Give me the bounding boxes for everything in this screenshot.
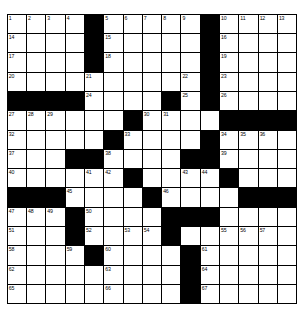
crossword-cell[interactable]: 57 — [259, 227, 278, 246]
crossword-cell[interactable]: 62 — [8, 266, 27, 285]
crossword-cell[interactable] — [27, 227, 46, 246]
crossword-cell[interactable] — [181, 111, 200, 130]
crossword-cell[interactable] — [278, 246, 297, 265]
crossword-cell[interactable]: 65 — [8, 285, 27, 304]
crossword-cell[interactable] — [124, 208, 143, 227]
crossword-cell[interactable] — [143, 169, 162, 188]
crossword-cell[interactable] — [181, 188, 200, 207]
crossword-cell[interactable]: 34 — [220, 131, 239, 150]
crossword-cell[interactable] — [259, 246, 278, 265]
crossword-cell[interactable] — [143, 92, 162, 111]
crossword-cell[interactable] — [201, 227, 220, 246]
crossword-cell[interactable]: 23 — [220, 73, 239, 92]
crossword-cell[interactable] — [278, 266, 297, 285]
crossword-cell[interactable] — [46, 227, 65, 246]
crossword-cell[interactable] — [220, 208, 239, 227]
crossword-cell[interactable] — [278, 150, 297, 169]
crossword-cell[interactable] — [27, 73, 46, 92]
crossword-cell[interactable]: 25 — [181, 92, 200, 111]
crossword-cell[interactable] — [239, 246, 258, 265]
crossword-cell[interactable]: 32 — [8, 131, 27, 150]
crossword-cell[interactable]: 56 — [239, 227, 258, 246]
crossword-cell[interactable] — [220, 246, 239, 265]
crossword-cell[interactable] — [46, 246, 65, 265]
crossword-cell[interactable]: 67 — [201, 285, 220, 304]
crossword-cell[interactable] — [46, 131, 65, 150]
crossword-cell[interactable] — [162, 150, 181, 169]
crossword-cell[interactable]: 39 — [220, 150, 239, 169]
crossword-cell[interactable] — [143, 150, 162, 169]
crossword-cell[interactable] — [259, 285, 278, 304]
crossword-cell[interactable] — [239, 208, 258, 227]
crossword-cell[interactable] — [220, 285, 239, 304]
crossword-cell[interactable]: 9 — [181, 15, 200, 34]
crossword-cell[interactable]: 44 — [201, 169, 220, 188]
crossword-cell[interactable] — [124, 150, 143, 169]
crossword-cell[interactable] — [181, 53, 200, 72]
crossword-cell[interactable] — [46, 53, 65, 72]
crossword-cell[interactable] — [143, 246, 162, 265]
crossword-cell[interactable]: 22 — [181, 73, 200, 92]
crossword-cell[interactable] — [66, 73, 85, 92]
crossword-cell[interactable] — [278, 34, 297, 53]
crossword-cell[interactable]: 16 — [220, 34, 239, 53]
crossword-cell[interactable] — [66, 131, 85, 150]
crossword-cell[interactable] — [278, 92, 297, 111]
crossword-cell[interactable] — [162, 285, 181, 304]
crossword-cell[interactable] — [259, 34, 278, 53]
crossword-cell[interactable] — [162, 34, 181, 53]
crossword-cell[interactable] — [124, 266, 143, 285]
crossword-cell[interactable]: 1 — [8, 15, 27, 34]
crossword-grid[interactable]: 1234567891011121314151617181920212223242… — [7, 14, 297, 304]
crossword-cell[interactable] — [239, 169, 258, 188]
crossword-cell[interactable] — [27, 53, 46, 72]
crossword-cell[interactable] — [124, 92, 143, 111]
crossword-cell[interactable] — [27, 266, 46, 285]
crossword-cell[interactable] — [239, 285, 258, 304]
crossword-cell[interactable] — [143, 34, 162, 53]
crossword-cell[interactable] — [162, 131, 181, 150]
crossword-cell[interactable]: 10 — [220, 15, 239, 34]
crossword-cell[interactable] — [104, 92, 123, 111]
crossword-cell[interactable]: 63 — [104, 266, 123, 285]
crossword-cell[interactable] — [201, 111, 220, 130]
crossword-cell[interactable]: 3 — [46, 15, 65, 34]
crossword-cell[interactable]: 2 — [27, 15, 46, 34]
crossword-cell[interactable] — [85, 188, 104, 207]
crossword-cell[interactable] — [259, 73, 278, 92]
crossword-cell[interactable] — [85, 111, 104, 130]
crossword-cell[interactable] — [66, 266, 85, 285]
crossword-cell[interactable]: 59 — [66, 246, 85, 265]
crossword-cell[interactable] — [143, 53, 162, 72]
crossword-cell[interactable] — [239, 92, 258, 111]
crossword-cell[interactable] — [27, 169, 46, 188]
crossword-cell[interactable]: 4 — [66, 15, 85, 34]
crossword-cell[interactable]: 19 — [220, 53, 239, 72]
crossword-cell[interactable] — [27, 150, 46, 169]
crossword-cell[interactable] — [66, 285, 85, 304]
crossword-cell[interactable]: 52 — [85, 227, 104, 246]
crossword-cell[interactable] — [162, 266, 181, 285]
crossword-cell[interactable] — [278, 208, 297, 227]
crossword-cell[interactable] — [66, 111, 85, 130]
crossword-cell[interactable] — [104, 73, 123, 92]
crossword-cell[interactable]: 13 — [278, 15, 297, 34]
crossword-cell[interactable] — [143, 266, 162, 285]
crossword-cell[interactable] — [46, 150, 65, 169]
crossword-cell[interactable] — [259, 208, 278, 227]
crossword-cell[interactable]: 7 — [143, 15, 162, 34]
crossword-cell[interactable] — [239, 73, 258, 92]
crossword-cell[interactable] — [85, 266, 104, 285]
crossword-cell[interactable]: 20 — [8, 73, 27, 92]
crossword-cell[interactable] — [66, 34, 85, 53]
crossword-cell[interactable] — [278, 285, 297, 304]
crossword-cell[interactable] — [143, 285, 162, 304]
crossword-cell[interactable]: 18 — [104, 53, 123, 72]
crossword-cell[interactable] — [143, 131, 162, 150]
crossword-cell[interactable] — [181, 227, 200, 246]
crossword-cell[interactable]: 5 — [104, 15, 123, 34]
crossword-cell[interactable] — [104, 208, 123, 227]
crossword-cell[interactable] — [278, 227, 297, 246]
crossword-cell[interactable] — [66, 169, 85, 188]
crossword-cell[interactable] — [124, 285, 143, 304]
